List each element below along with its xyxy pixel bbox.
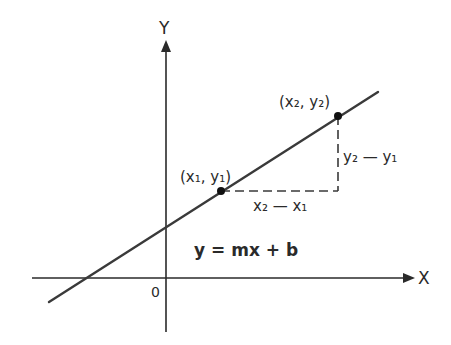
point-1-label: (x₁, y₁) <box>180 168 231 186</box>
point-1-dot <box>217 187 225 195</box>
slope-diagram: X Y 0 (x₁, y₁) (x₂, y₂) x₂ — x₁ y₂ — y₁ … <box>0 0 451 345</box>
y-axis-arrow-icon <box>161 40 171 52</box>
x-axis-label: X <box>418 268 430 288</box>
run-label: x₂ — x₁ <box>253 197 307 215</box>
x-axis-arrow-icon <box>403 273 415 283</box>
point-2-label: (x₂, y₂) <box>279 93 330 111</box>
rise-label: y₂ — y₁ <box>343 148 397 166</box>
point-2-dot <box>334 112 342 120</box>
equation-label: y = mx + b <box>194 240 298 260</box>
origin-label: 0 <box>151 284 160 300</box>
y-axis-label: Y <box>158 18 170 38</box>
line-y-mx-b <box>49 92 378 302</box>
